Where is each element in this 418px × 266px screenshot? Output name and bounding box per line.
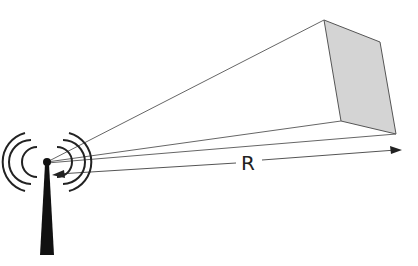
- antenna-tower-icon: [40, 158, 54, 255]
- radar-range-diagram: R: [0, 0, 418, 266]
- range-label: R: [241, 151, 255, 175]
- range-arrow: [52, 146, 402, 178]
- beam-cross-section: [324, 20, 396, 134]
